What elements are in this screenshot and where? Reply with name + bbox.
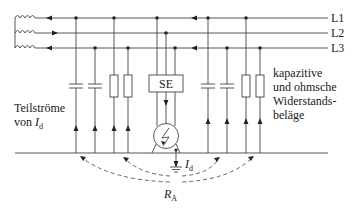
earth-fault-diagram: L1 L2 L3 <box>0 0 354 212</box>
impedance-label-line4: beläge <box>273 108 304 122</box>
partial-currents-label-line2: von Id <box>14 115 43 131</box>
impedance-label-line2: und ohmsche <box>273 80 337 94</box>
fault-current-label: Id <box>184 157 193 173</box>
motor-fault-icon <box>152 124 180 154</box>
impedance-label-line3: Widerstands- <box>273 94 337 108</box>
left-branches <box>69 16 132 153</box>
impedance-label-line1: kapazitive <box>273 66 322 80</box>
partial-currents-label-line1: Teilströme <box>14 101 65 115</box>
phase-label-l2: L2 <box>331 26 344 40</box>
return-current-paths <box>80 156 254 182</box>
phase-label-l3: L3 <box>331 41 344 55</box>
phase-label-l1: L1 <box>331 11 344 25</box>
right-branches <box>201 16 264 153</box>
phase-lines <box>35 16 328 51</box>
earth-resistance-label: RA <box>163 187 177 203</box>
coil-icon <box>15 16 35 49</box>
se-label: SE <box>159 77 173 91</box>
